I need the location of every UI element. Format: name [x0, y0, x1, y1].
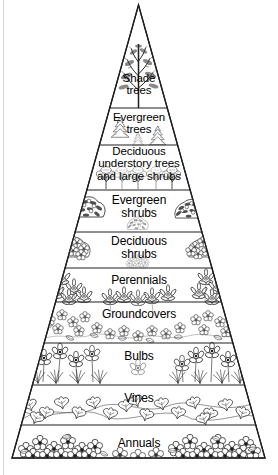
pyramid-illustration [0, 0, 278, 475]
plant-pyramid-diagram: Shade trees Evergreen trees Deciduous un… [0, 0, 278, 475]
